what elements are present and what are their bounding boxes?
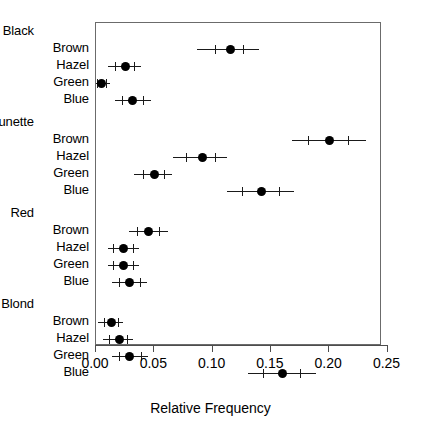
x-axis-tick <box>328 345 329 352</box>
error-bar-inner-tick-lower <box>104 318 105 327</box>
row-label-brunette-brown: Brown <box>0 132 92 145</box>
data-point-marker <box>97 79 106 88</box>
row-label-red-blue: Blue <box>0 274 92 287</box>
row-label-red-brown: Brown <box>0 223 92 236</box>
data-point-marker <box>128 96 137 105</box>
row-label-brunette-hazel: Hazel <box>0 149 92 162</box>
row-label-black-brown: Brown <box>0 41 92 54</box>
error-bar-inner-tick-lower <box>137 227 138 236</box>
data-point-marker <box>226 45 235 54</box>
x-axis-tick-label: 0.05 <box>123 356 183 370</box>
error-bar-inner-tick-lower <box>113 244 114 253</box>
error-bar-inner-tick-upper <box>348 136 349 145</box>
row-label-brunette-blue: Blue <box>0 183 92 196</box>
x-axis-tick-label: 0.10 <box>182 356 242 370</box>
x-axis-line <box>95 345 387 346</box>
plot-area <box>95 22 381 345</box>
error-bar-inner-tick-upper <box>243 45 244 54</box>
x-axis-tick <box>153 345 154 352</box>
x-axis-tick-label: 0.15 <box>240 356 300 370</box>
error-bar-inner-tick-upper <box>164 170 165 179</box>
group-label-red: Red <box>0 206 92 219</box>
x-axis-tick-label: 0.00 <box>65 356 125 370</box>
error-bar-inner-tick-upper <box>300 369 301 378</box>
error-bar-inner-tick-lower <box>215 45 216 54</box>
row-label-column: BlackBrownHazelGreenBlueBrunetteBrownHaz… <box>0 22 92 345</box>
data-point-marker <box>119 244 128 253</box>
error-bar-inner-tick-upper <box>279 187 280 196</box>
error-bar-inner-tick-upper <box>143 96 144 105</box>
error-bar-inner-tick-upper <box>118 318 119 327</box>
relative-frequency-dot-plot: BlackBrownHazelGreenBlueBrunetteBrownHaz… <box>0 0 421 442</box>
data-point-marker <box>198 153 207 162</box>
row-label-black-blue: Blue <box>0 92 92 105</box>
row-label-red-green: Green <box>0 257 92 270</box>
x-axis-tick <box>95 345 96 352</box>
row-label-black-hazel: Hazel <box>0 58 92 71</box>
x-axis-tick <box>387 345 388 352</box>
data-point-marker <box>107 318 116 327</box>
error-bar-inner-tick-lower <box>115 62 116 71</box>
row-label-red-hazel: Hazel <box>0 240 92 253</box>
error-bar-inner-tick-upper <box>134 62 135 71</box>
error-bar-inner-tick-upper <box>133 244 134 253</box>
error-bar-inner-tick-lower <box>143 170 144 179</box>
data-point-marker <box>119 261 128 270</box>
row-label-black-green: Green <box>0 75 92 88</box>
error-bar-inner-tick-upper <box>215 153 216 162</box>
data-point-marker <box>150 170 159 179</box>
error-bar-inner-tick-lower <box>308 136 309 145</box>
x-axis-tick-label: 0.20 <box>298 356 358 370</box>
data-point-marker <box>125 278 134 287</box>
x-axis-title: Relative Frequency <box>0 400 421 416</box>
x-axis-tick <box>270 345 271 352</box>
data-point-marker <box>325 136 334 145</box>
error-bar-inner-tick-lower <box>109 335 110 344</box>
error-bar-inner-tick-upper <box>133 261 134 270</box>
error-bar-inner-tick-lower <box>242 187 243 196</box>
error-bar-inner-tick-lower <box>122 96 123 105</box>
error-bar-inner-tick-lower <box>186 153 187 162</box>
error-bar-inner-tick-lower <box>119 278 120 287</box>
error-bar-inner-tick-lower <box>113 261 114 270</box>
data-point-marker <box>257 187 266 196</box>
error-bar-inner-tick-upper <box>106 79 107 88</box>
x-axis-tick <box>212 345 213 352</box>
error-bar-inner-tick-upper <box>140 278 141 287</box>
data-point-marker <box>115 335 124 344</box>
x-axis: 0.000.050.100.150.200.25 <box>95 345 381 346</box>
error-bar-inner-tick-upper <box>159 227 160 236</box>
row-label-brunette-green: Green <box>0 166 92 179</box>
data-point-marker <box>144 227 153 236</box>
group-label-black: Black <box>0 24 92 37</box>
error-bar-inner-tick-upper <box>127 335 128 344</box>
group-label-blond: Blond <box>0 297 92 310</box>
group-label-brunette: Brunette <box>0 115 92 128</box>
data-point-marker <box>121 62 130 71</box>
row-label-blond-brown: Brown <box>0 314 92 327</box>
x-axis-tick-label: 0.25 <box>357 356 417 370</box>
row-label-blond-hazel: Hazel <box>0 331 92 344</box>
